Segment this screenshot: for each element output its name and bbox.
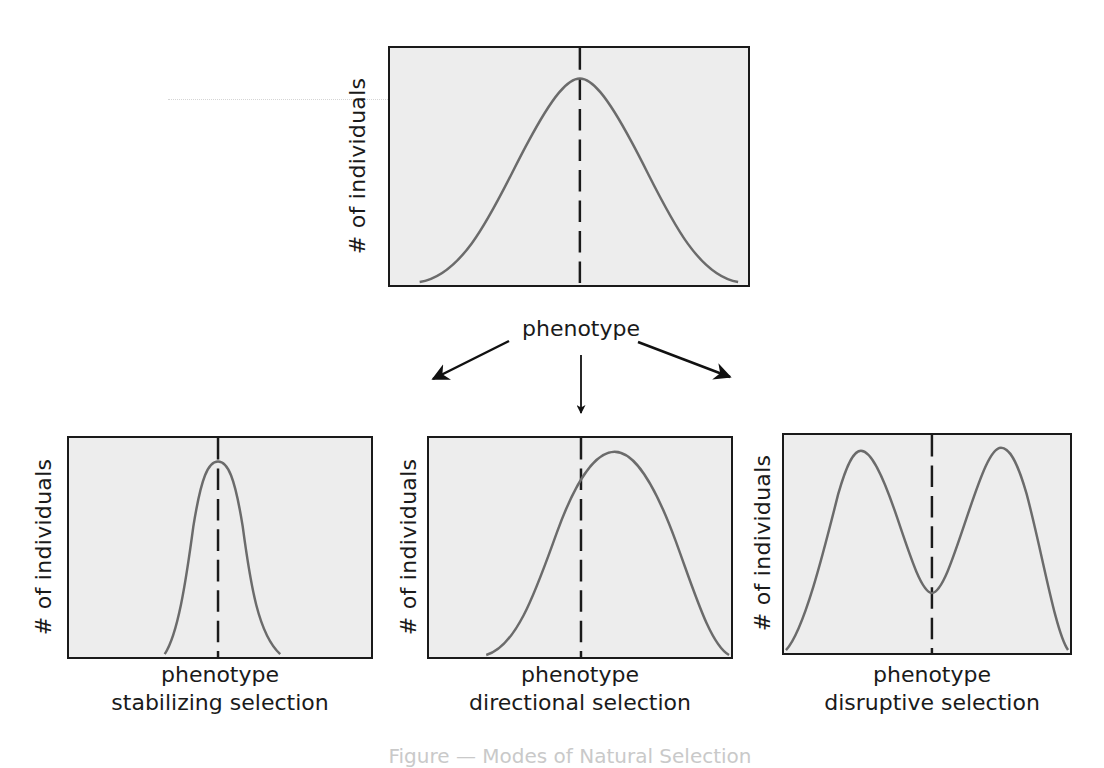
directional-plot-x-axis-label: phenotype bbox=[521, 662, 639, 687]
shifted-bell-curve-graphic bbox=[429, 438, 731, 657]
stabilizing-plot-x-axis-label: phenotype bbox=[161, 662, 279, 687]
top-plot-y-axis-label: # of individuals bbox=[345, 78, 370, 255]
distribution-curve bbox=[486, 452, 729, 655]
disruptive-selection-plot bbox=[782, 433, 1072, 655]
top-plot-x-axis-label: phenotype bbox=[522, 316, 640, 341]
disruptive-plot-y-axis-label: # of individuals bbox=[750, 455, 775, 632]
stabilizing-plot-y-axis-label: # of individuals bbox=[31, 459, 56, 636]
clipped-figure-caption: Figure — Modes of Natural Selection bbox=[389, 744, 752, 768]
distribution-curve bbox=[786, 448, 1068, 650]
top-plot-original-distribution bbox=[388, 46, 750, 287]
bell-curve-graphic bbox=[390, 48, 748, 285]
disruptive-plot-x-axis-label: phenotype bbox=[873, 662, 991, 687]
stabilizing-selection-caption: stabilizing selection bbox=[111, 690, 328, 715]
disruptive-selection-caption: disruptive selection bbox=[824, 690, 1040, 715]
distribution-curve bbox=[165, 462, 280, 654]
stabilizing-selection-plot bbox=[67, 436, 373, 659]
directional-selection-plot bbox=[427, 436, 733, 659]
narrow-bell-curve-graphic bbox=[69, 438, 371, 657]
arrow-right-icon bbox=[638, 342, 730, 377]
directional-selection-caption: directional selection bbox=[469, 690, 691, 715]
arrow-left-icon bbox=[433, 341, 509, 379]
bimodal-curve-graphic bbox=[784, 435, 1070, 653]
directional-plot-y-axis-label: # of individuals bbox=[396, 459, 421, 636]
